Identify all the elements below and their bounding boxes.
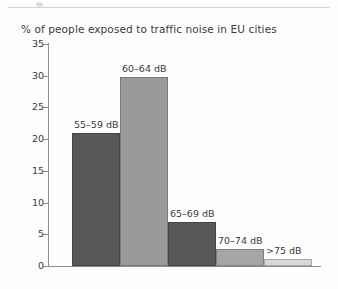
bar-label-4: 70–74 dB	[218, 236, 263, 246]
bar-label-3: 65–69 dB	[170, 209, 215, 219]
bar-series: 55–59 dB60–64 dB65–69 dB70–74 dB>75 dB	[0, 0, 338, 289]
bar-1	[72, 133, 120, 266]
chart-page: % of people exposed to traffic noise in …	[0, 0, 338, 289]
bar-5	[264, 259, 312, 266]
bar-label-2: 60–64 dB	[122, 64, 167, 74]
bar-4	[216, 249, 264, 266]
bar-label-5: >75 dB	[266, 246, 302, 256]
bar-label-1: 55–59 dB	[74, 120, 119, 130]
bar-2	[120, 77, 168, 266]
bar-3	[168, 222, 216, 266]
